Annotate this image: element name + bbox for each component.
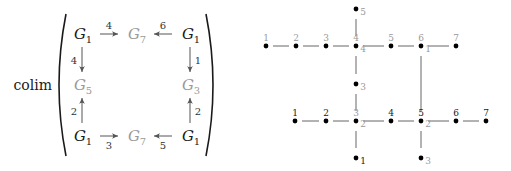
- vertex-top-label: 7: [483, 108, 489, 118]
- vertex-a4: 44: [353, 33, 366, 54]
- colimit-diagram: colim 46412235 G1G7G1G5G3G1G7G1: [14, 14, 214, 156]
- vertex-dot: [389, 119, 394, 124]
- vertex-b7: 7: [483, 108, 489, 123]
- group-node-tl: G1: [74, 25, 92, 45]
- node-label: G: [74, 76, 86, 94]
- vertex-b6: 6: [453, 108, 459, 123]
- arrow-label: 3: [106, 140, 112, 151]
- vertex-u5: 5: [354, 7, 367, 17]
- vertex-sub-label: 1: [360, 156, 366, 166]
- arrow-tr-to-tm: 6: [154, 20, 172, 37]
- vertex-dot: [419, 44, 424, 49]
- vertex-a3: 3: [323, 33, 329, 48]
- group-node-tr: G1: [182, 25, 200, 45]
- group-node-bl: G1: [74, 127, 92, 147]
- vertex-top-label: 7: [453, 33, 459, 43]
- vertex-dot: [354, 119, 359, 124]
- vertex-a6: 61: [418, 33, 431, 54]
- arrow-label: 4: [71, 55, 77, 66]
- graph-diagram: 1234456175312324526713: [263, 7, 489, 166]
- vertex-a1: 1: [263, 33, 269, 48]
- vertex-top-label: 2: [323, 108, 329, 118]
- node-group: G1G7G1G5G3G1G7G1: [74, 25, 200, 147]
- vertex-top-label: 2: [293, 33, 299, 43]
- vertex-top-label: 6: [453, 108, 459, 118]
- vertex-group: 1234456175312324526713: [263, 7, 489, 166]
- group-node-tm: G7: [128, 25, 146, 45]
- vertex-top-label: 3: [353, 108, 359, 118]
- vertex-b3: 32: [353, 108, 366, 129]
- vertex-u3: 3: [354, 82, 367, 92]
- node-label: G: [182, 127, 194, 145]
- vertex-sub-label: 2: [425, 119, 431, 129]
- right-parenthesis: [206, 14, 213, 156]
- vertex-top-label: 5: [388, 33, 394, 43]
- vertex-top-label: 1: [263, 33, 269, 43]
- arrow-bl-to-bm: 3: [100, 133, 118, 151]
- vertex-b1: 1: [292, 108, 298, 123]
- arrow-label: 4: [106, 20, 112, 31]
- vertex-dot: [324, 44, 329, 49]
- arrow-tr-to-mr: 1: [187, 47, 201, 72]
- vertex-dot: [354, 7, 359, 12]
- arrow-label: 2: [195, 106, 201, 117]
- node-subscript: 5: [86, 85, 92, 96]
- vertex-dot: [354, 44, 359, 49]
- vertex-dot: [454, 119, 459, 124]
- vertex-a2: 2: [293, 33, 299, 48]
- arrow-label: 2: [71, 106, 77, 117]
- vertex-dot: [294, 44, 299, 49]
- vertex-b4: 4: [388, 108, 394, 123]
- vertex-dot: [389, 44, 394, 49]
- vertex-top-label: 4: [388, 108, 394, 118]
- vertex-top-label: 4: [353, 33, 359, 43]
- vertex-dot: [324, 119, 329, 124]
- vertex-dot: [419, 119, 424, 124]
- vertex-dot: [354, 82, 359, 87]
- arrow-br-to-mr: 2: [187, 98, 201, 123]
- vertex-dot: [264, 44, 269, 49]
- arrow-label: 6: [160, 20, 166, 31]
- node-label: G: [182, 76, 194, 94]
- arrow-label: 5: [160, 140, 166, 151]
- node-subscript: 7: [140, 34, 146, 45]
- arrow-bl-to-ml: 2: [71, 98, 85, 123]
- vertex-dot: [354, 156, 359, 161]
- vertex-dot: [454, 44, 459, 49]
- node-subscript: 1: [86, 136, 92, 147]
- vertex-dot: [293, 119, 298, 124]
- vertex-top-label: 1: [292, 108, 298, 118]
- vertex-sub-label: 1: [425, 44, 431, 54]
- node-label: G: [182, 25, 194, 43]
- node-label: G: [74, 25, 86, 43]
- group-node-ml: G5: [74, 76, 92, 96]
- vertex-sub-label: 4: [360, 44, 366, 54]
- arrow-br-to-bm: 5: [154, 133, 172, 151]
- arrow-tl-to-ml: 4: [71, 47, 85, 72]
- node-subscript: 1: [194, 34, 200, 45]
- vertex-sub-label: 3: [425, 156, 431, 166]
- vertex-b2: 2: [323, 108, 329, 123]
- vertex-dot: [419, 156, 424, 161]
- vertex-top-label: 5: [418, 108, 424, 118]
- node-subscript: 1: [86, 34, 92, 45]
- node-label: G: [74, 127, 86, 145]
- vertex-dot: [484, 119, 489, 124]
- vertex-d1: 1: [354, 156, 366, 166]
- node-label: G: [128, 127, 140, 145]
- group-node-mr: G3: [182, 76, 200, 96]
- vertex-top-label: 6: [418, 33, 424, 43]
- group-node-bm: G7: [128, 127, 146, 147]
- node-subscript: 7: [140, 136, 146, 147]
- vertex-d3: 3: [419, 156, 432, 166]
- arrow-tl-to-tm: 4: [100, 20, 118, 37]
- arrow-label: 1: [195, 55, 201, 66]
- node-subscript: 3: [194, 85, 200, 96]
- edge-group: [273, 19, 479, 148]
- node-label: G: [128, 25, 140, 43]
- diagram-canvas: colim 46412235 G1G7G1G5G3G1G7G1 12344561…: [0, 0, 511, 171]
- vertex-sub-label: 5: [360, 7, 366, 17]
- colim-operator: colim: [14, 77, 53, 93]
- left-parenthesis: [59, 14, 66, 156]
- vertex-a7: 7: [453, 33, 459, 48]
